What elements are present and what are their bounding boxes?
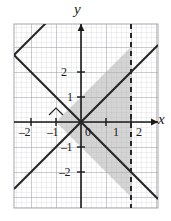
origin-label: 0 xyxy=(85,126,91,138)
x-tick-label-2: 2 xyxy=(136,126,142,138)
x-tick-label-neg1: –1 xyxy=(47,126,58,138)
x-axis-label: x xyxy=(158,112,165,127)
y-axis-label: y xyxy=(74,2,81,17)
x-tick-label-1: 1 xyxy=(113,126,119,138)
y-tick-label-2: 2 xyxy=(61,66,67,78)
graph-figure: y x 2 1 –1 –2 –2 –1 0 1 2 xyxy=(0,0,171,221)
y-tick-label-neg1: –1 xyxy=(61,141,72,153)
x-tick-label-neg2: –2 xyxy=(19,126,30,138)
y-tick-label-1: 1 xyxy=(67,91,73,103)
y-tick-label-neg2: –2 xyxy=(59,166,70,178)
coordinate-plane-svg xyxy=(0,0,171,221)
